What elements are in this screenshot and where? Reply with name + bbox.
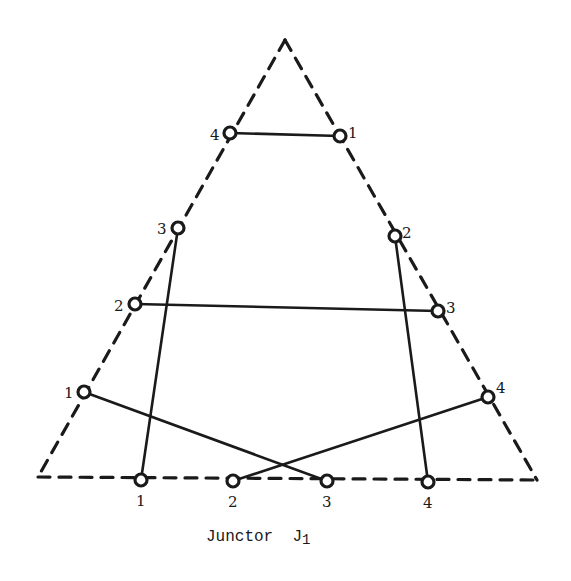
node-B3: [321, 475, 333, 487]
connection-lines: [84, 133, 488, 482]
dashed-triangle-outline: [38, 40, 537, 480]
edge-L2-R3: [135, 304, 438, 311]
node-R1: [334, 130, 346, 142]
node-label-B4: 4: [423, 494, 433, 512]
node-label-R1: 1: [348, 124, 358, 142]
node-label-B3: 3: [322, 493, 332, 511]
edge-R4-B2: [233, 397, 488, 481]
node-label-B1: 1: [136, 492, 146, 510]
caption-text: Junctor J: [206, 528, 302, 546]
edge-L4-R1: [230, 133, 340, 136]
node-label-L3: 3: [157, 220, 167, 238]
diagram-caption: Junctor J1: [206, 528, 310, 546]
node-L1: [78, 386, 90, 398]
node-label-L1: 1: [64, 384, 74, 402]
node-label-R3: 3: [446, 299, 456, 317]
edge-L1-B3: [84, 392, 327, 481]
node-label-L2: 2: [114, 297, 124, 315]
triangle-base: [38, 477, 537, 480]
junctor-diagram: 123412341234: [0, 0, 571, 581]
node-label-R2: 2: [402, 224, 412, 242]
node-label-R4: 4: [496, 379, 506, 397]
node-label-B2: 2: [228, 493, 238, 511]
triangle-right-side: [285, 40, 537, 480]
node-label-L4: 4: [210, 126, 220, 144]
node-R3: [432, 305, 444, 317]
node-R4: [482, 391, 494, 403]
triangle-left-side: [38, 40, 285, 477]
node-B1: [135, 474, 147, 486]
node-B2: [227, 475, 239, 487]
node-L4: [224, 127, 236, 139]
node-L3: [172, 222, 184, 234]
node-R2: [389, 230, 401, 242]
caption-subscript: 1: [302, 532, 310, 548]
node-B4: [422, 476, 434, 488]
node-L2: [129, 298, 141, 310]
edge-L3-B1: [141, 228, 178, 480]
edge-R2-B4: [395, 236, 428, 482]
